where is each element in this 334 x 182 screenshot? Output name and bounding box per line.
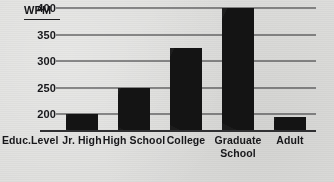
x-tick-label-line1: Adult [276,134,303,146]
y-tick-label: 200 [37,108,56,120]
x-axis-title-line1: Educ. [2,134,31,146]
y-tick-label: 250 [37,82,56,94]
y-axis-title-rule [24,19,60,20]
x-tick-label-line1: College [167,134,206,146]
x-axis-labels: Educ.Level Jr. HighHigh SchoolCollegeGra… [0,134,334,182]
x-axis-line [40,130,316,132]
x-tick-label: Adult [254,134,326,147]
plot-area [56,8,316,130]
x-tick-label-line2: School [202,147,274,160]
y-axis: WPM 400350300250200 [0,0,64,140]
bar-chart: WPM 400350300250200 Educ.Level Jr. HighH… [0,0,334,182]
bar [274,117,305,130]
x-tick-label-line1: Jr. High [62,134,101,146]
gridline [56,34,316,35]
y-tick-label: 400 [37,2,56,14]
bar [118,88,149,130]
bar [66,114,97,130]
bar [222,8,253,130]
y-tick-label: 300 [37,55,56,67]
y-tick-label: 350 [37,29,56,41]
gridline [56,8,316,9]
bar [170,48,201,130]
